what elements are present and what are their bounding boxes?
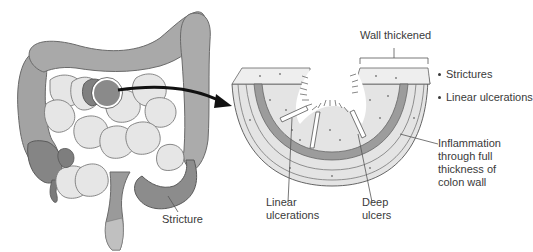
wall-thickened-bracket [360, 48, 428, 64]
label-deep-ulcers: Deep ulcers [362, 196, 391, 222]
transverse-colon [29, 12, 206, 72]
feature-item: Strictures [438, 68, 533, 81]
bullet-icon [438, 96, 441, 99]
label-stricture: Stricture [162, 213, 203, 226]
key-features-list: Strictures Linear ulcerations [438, 68, 533, 114]
label-wall-thickened: Wall thickened [360, 29, 431, 42]
magnified-area-circle [93, 79, 121, 107]
feature-item: Linear ulcerations [438, 91, 533, 104]
label-inflammation: Inflammation through full thickness of c… [438, 137, 501, 189]
label-linear-ulcerations: Linear ulcerations [266, 196, 319, 222]
cut-face [232, 68, 310, 84]
bullet-icon [438, 73, 441, 76]
